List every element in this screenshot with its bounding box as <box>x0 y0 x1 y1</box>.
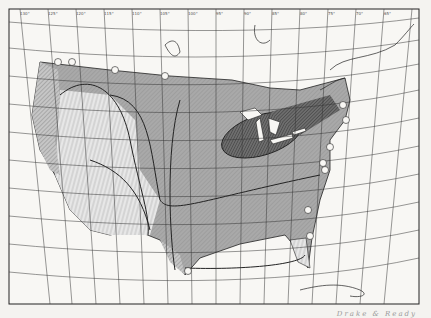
map-caption: Drake & Ready <box>337 310 417 318</box>
svg-text:75°: 75° <box>328 11 335 16</box>
svg-text:95°: 95° <box>216 11 223 16</box>
svg-text:70°: 70° <box>356 11 363 16</box>
svg-text:120°: 120° <box>76 11 86 16</box>
svg-text:65°: 65° <box>384 11 391 16</box>
svg-text:115°: 115° <box>104 11 114 16</box>
svg-text:110°: 110° <box>132 11 142 16</box>
svg-text:105°: 105° <box>160 11 170 16</box>
svg-text:80°: 80° <box>300 11 307 16</box>
svg-text:85°: 85° <box>272 11 279 16</box>
svg-text:130°: 130° <box>20 11 30 16</box>
svg-text:125°: 125° <box>48 11 58 16</box>
us-map: 130°125° 120°115° 110°105° 100°95° 90°85… <box>0 0 431 318</box>
svg-text:100°: 100° <box>188 11 198 16</box>
svg-text:90°: 90° <box>244 11 251 16</box>
